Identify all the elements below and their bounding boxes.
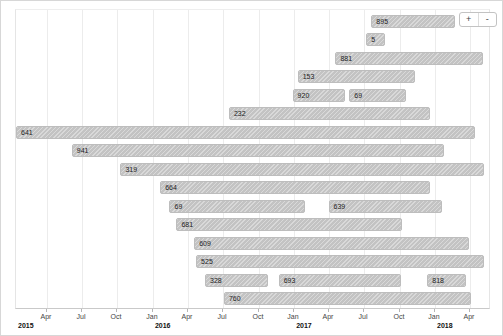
gantt-bar[interactable]: 639 (329, 200, 442, 213)
gantt-bar[interactable]: 69 (169, 200, 304, 213)
axis-tick-label: Oct (103, 313, 129, 320)
axis-tick-label: Apr (174, 313, 200, 320)
axis-tick-mark (328, 309, 329, 312)
axis-tick-mark (222, 309, 223, 312)
gantt-bar-label: 941 (77, 147, 89, 154)
axis-tick-mark (116, 309, 117, 312)
plot-area: 8955881153920692326419413196646963968160… (15, 9, 490, 309)
axis-tick-mark (399, 309, 400, 312)
gantt-bar[interactable]: 881 (335, 52, 482, 65)
axis-tick-mark (81, 309, 82, 312)
axis-tick-label: Apr (33, 313, 59, 320)
axis-tick-label: Jul (350, 313, 376, 320)
gantt-bar-label: 693 (284, 277, 296, 284)
gantt-bar[interactable]: 319 (120, 163, 484, 176)
gantt-bar-label: 319 (125, 166, 137, 173)
gantt-bar-label: 69 (354, 92, 362, 99)
gantt-bar-label: 328 (210, 277, 222, 284)
axis-tick-label: Jan (421, 313, 447, 320)
axis-tick-label: Jan (139, 313, 165, 320)
gantt-bar[interactable]: 693 (279, 274, 401, 287)
axis-tick-label: Oct (386, 313, 412, 320)
axis-tick-label: Oct (245, 313, 271, 320)
axis-tick-label: Jan (280, 313, 306, 320)
gantt-bar-label: 895 (376, 18, 388, 25)
gantt-bar[interactable]: 664 (160, 181, 430, 194)
gantt-bar-label: 641 (21, 129, 33, 136)
axis-year-label: 2018 (437, 322, 453, 329)
gantt-bar[interactable]: 328 (205, 274, 268, 287)
gantt-bar-label: 920 (298, 92, 310, 99)
gantt-bar-label: 69 (174, 203, 182, 210)
gantt-bar-label: 681 (181, 221, 193, 228)
axis-tick-mark (434, 309, 435, 312)
axis-tick-mark (258, 309, 259, 312)
gantt-bar-label: 525 (201, 258, 213, 265)
gantt-bar[interactable]: 5 (366, 33, 385, 46)
axis-year-label: 2017 (296, 322, 312, 329)
gantt-bar[interactable]: 153 (298, 70, 416, 83)
grid-line (117, 10, 118, 308)
gantt-bar-label: 5 (371, 36, 375, 43)
gantt-bar-label: 609 (199, 240, 211, 247)
zoom-in-button[interactable]: + (460, 13, 478, 26)
axis-tick-label: Apr (456, 313, 482, 320)
axis-tick-mark (293, 309, 294, 312)
grid-line (82, 10, 83, 308)
gantt-chart: 8955881153920692326419413196646963968160… (0, 0, 503, 336)
axis-year-label: 2016 (155, 322, 171, 329)
gantt-bar[interactable]: 232 (229, 107, 430, 120)
gantt-bar[interactable]: 818 (427, 274, 466, 287)
grid-line (47, 10, 48, 308)
gantt-bar-label: 664 (165, 184, 177, 191)
axis-tick-label: Apr (315, 313, 341, 320)
grid-line (153, 10, 154, 308)
gantt-bar-label: 639 (334, 203, 346, 210)
axis-tick-mark (363, 309, 364, 312)
axis-tick-mark (152, 309, 153, 312)
x-axis: AprJulOctJanAprJulOctJanAprJulOctJanApr2… (15, 309, 490, 335)
gantt-bar[interactable]: 681 (176, 218, 402, 231)
grid-line (188, 10, 189, 308)
gantt-bar-label: 881 (340, 55, 352, 62)
gantt-bar[interactable]: 641 (16, 126, 475, 139)
axis-tick-label: Jul (68, 313, 94, 320)
gantt-bar-label: 818 (432, 277, 444, 284)
gantt-bar[interactable]: 895 (371, 15, 455, 28)
gantt-bar[interactable]: 69 (349, 89, 406, 102)
axis-year-label: 2015 (18, 322, 34, 329)
gantt-bar-label: 153 (303, 73, 315, 80)
gantt-bar-label: 232 (234, 110, 246, 117)
gantt-bar[interactable]: 525 (196, 255, 484, 268)
gantt-bar[interactable]: 941 (72, 144, 444, 157)
axis-tick-label: Jul (209, 313, 235, 320)
gantt-bar[interactable]: 760 (224, 292, 471, 305)
axis-tick-mark (46, 309, 47, 312)
gantt-bar-label: 760 (229, 295, 241, 302)
axis-tick-mark (187, 309, 188, 312)
gantt-bar[interactable]: 920 (293, 89, 346, 102)
zoom-out-button[interactable]: - (479, 13, 497, 26)
zoom-control: + - (459, 12, 497, 27)
gantt-bar[interactable]: 609 (194, 237, 469, 250)
axis-tick-mark (469, 309, 470, 312)
